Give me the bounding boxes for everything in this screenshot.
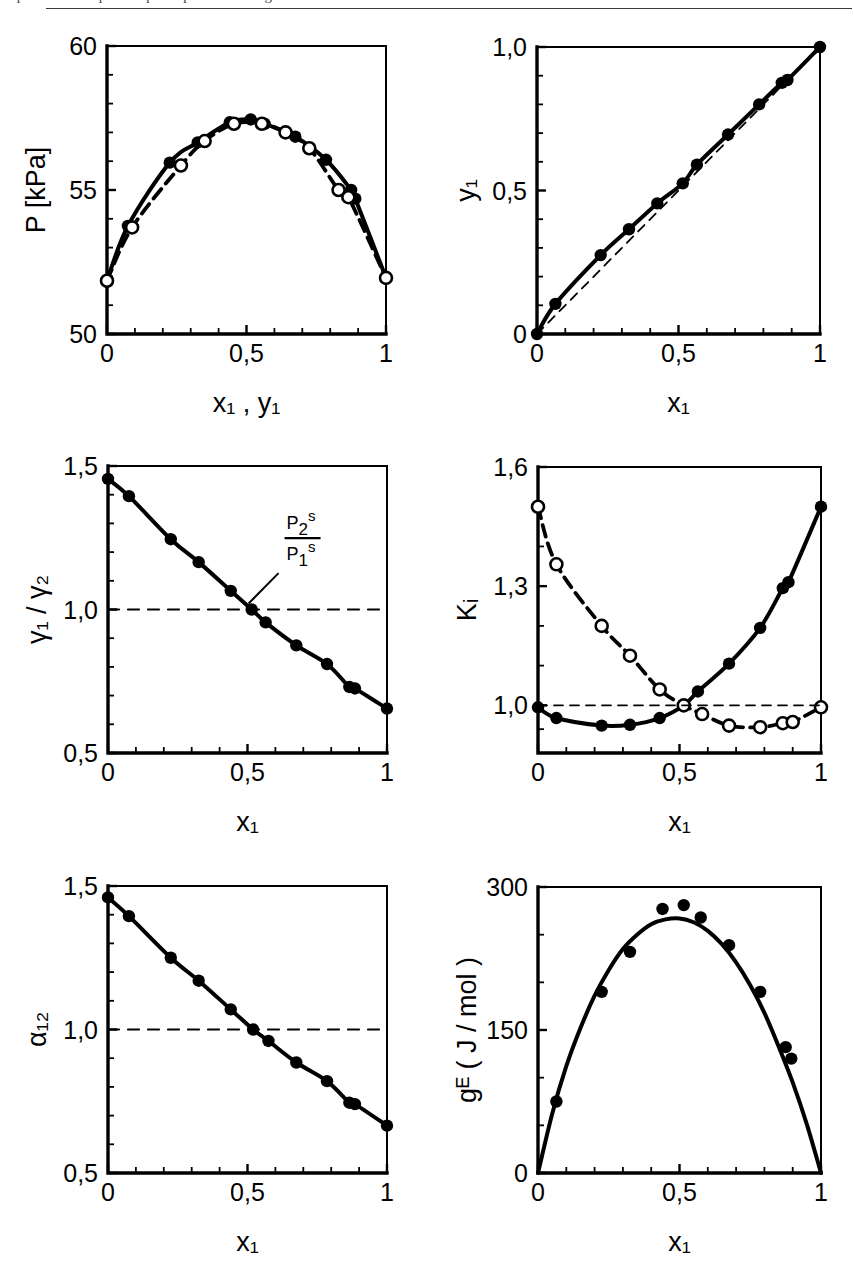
data-point-filled	[754, 622, 766, 634]
data-point-filled	[722, 128, 734, 140]
y-tick-label: 50	[69, 320, 97, 348]
data-point-filled	[782, 576, 794, 588]
y-axis-label: α₁₂	[22, 1012, 52, 1047]
data-point-open	[228, 118, 240, 130]
annotation-numerator: P2s	[287, 507, 316, 539]
x-tick-label: 0,5	[662, 758, 697, 786]
y-tick-label: 1,3	[493, 572, 528, 600]
data-point-filled	[624, 719, 636, 731]
data-point-filled	[321, 658, 333, 670]
series-line-filled-circle	[108, 479, 387, 709]
y-tick-label: 1,0	[63, 1016, 98, 1044]
x-tick-label: 1	[380, 1178, 394, 1206]
annotation-leader-line	[249, 573, 279, 603]
x-tick-label: 0,5	[230, 758, 265, 786]
x-axis-label: x₁ , y₁	[213, 388, 281, 418]
y-axis-label-text: gᴱ ( J / mol )	[452, 957, 482, 1103]
data-point-filled	[165, 952, 177, 964]
x-axis-label: x₁	[667, 388, 690, 418]
data-point-open	[596, 620, 608, 632]
data-point-filled	[595, 719, 607, 731]
y-tick-label: 55	[69, 176, 97, 204]
x-axis-label: x₁	[236, 1227, 259, 1257]
y-tick-label: 60	[69, 32, 97, 60]
x-tick-label: 0	[531, 758, 545, 786]
y-tick-label: 1,0	[493, 691, 528, 719]
figure-canvas: Experimental vapour–liquid equilibrium d…	[0, 0, 853, 1264]
data-point-filled	[225, 585, 237, 597]
x-tick-label: 1	[380, 758, 394, 786]
data-point-filled	[192, 975, 204, 987]
y-axis-label-text: γ₁ / γ₂	[22, 575, 52, 644]
y-tick-label: 1,6	[493, 453, 528, 481]
data-point-filled	[623, 223, 635, 235]
x-tick-label: 0	[100, 339, 114, 367]
data-point-open	[199, 135, 211, 147]
data-point-filled	[723, 657, 735, 669]
data-point-open	[787, 716, 799, 728]
data-point-open	[126, 221, 138, 233]
series-line-filled-circle	[538, 507, 821, 726]
data-point-filled	[653, 712, 665, 724]
y-tick-label: 0	[514, 1159, 528, 1187]
y-tick-label: 1,0	[492, 33, 527, 61]
data-point-open	[256, 118, 268, 130]
data-point-open	[754, 721, 766, 733]
series-line-none	[538, 918, 821, 1173]
x-axis-label: x₁	[668, 1227, 691, 1257]
y-tick-label: 0,5	[492, 177, 527, 205]
chart-panel-alpha12: 00,510,51,01,5x₁α₁₂	[22, 872, 394, 1257]
data-point-filled	[259, 616, 271, 628]
data-point-filled	[123, 910, 135, 922]
data-point-filled	[550, 712, 562, 724]
plot-grid: 00,51505560x₁ , y₁P [kPa]00,5100,51,0x₁y…	[0, 0, 853, 1264]
data-point-filled	[549, 298, 561, 310]
data-point-filled	[381, 702, 393, 714]
chart-panel-k-values: 00,511,01,31,6x₁Kᵢ	[452, 453, 828, 837]
data-point-filled	[102, 891, 114, 903]
data-point-filled	[349, 682, 361, 694]
x-tick-label: 0,5	[662, 1178, 697, 1206]
chart-panel-p-xy: 00,51505560x₁ , y₁P [kPa]	[21, 32, 393, 418]
data-point-open	[175, 160, 187, 172]
x-tick-label: 0	[530, 339, 544, 367]
data-point-open	[550, 558, 562, 570]
data-point-filled	[262, 1035, 274, 1047]
y-tick-label: 1,0	[63, 596, 98, 624]
y-tick-label: 1,5	[63, 452, 98, 480]
data-point-filled	[290, 639, 302, 651]
data-point-filled	[691, 158, 703, 170]
series-line-none	[537, 47, 820, 334]
data-point-open	[280, 126, 292, 138]
data-point-filled	[677, 177, 689, 189]
page-header-sliver: Experimental vapour–liquid equilibrium d…	[0, 0, 853, 7]
y-axis-label-text: Kᵢ	[452, 599, 482, 621]
data-point-filled	[225, 1003, 237, 1015]
data-point-filled	[532, 701, 544, 713]
y-axis-label: Kᵢ	[452, 599, 482, 621]
y-axis-label: y₁	[451, 179, 481, 202]
page-header-text: Experimental vapour–liquid equilibrium d…	[0, 0, 301, 4]
x-tick-label: 0	[101, 758, 115, 786]
data-point-open	[624, 650, 636, 662]
y-tick-label: 300	[486, 873, 528, 901]
data-point-filled	[692, 685, 704, 697]
x-tick-label: 1	[813, 339, 827, 367]
data-point-open	[654, 683, 666, 695]
y-axis-label-text: P [kPa]	[21, 147, 51, 234]
y-tick-label: 0	[513, 320, 527, 348]
x-axis-label: x₁	[236, 807, 259, 837]
x-tick-label: 1	[379, 339, 393, 367]
chart-panel-excess-gibbs: 00,510150300x₁gᴱ ( J / mol )	[452, 873, 828, 1257]
data-point-open	[723, 720, 735, 732]
data-point-filled	[594, 249, 606, 261]
data-point-open	[815, 701, 827, 713]
x-tick-label: 0	[101, 1178, 115, 1206]
data-point-filled	[656, 903, 668, 915]
data-point-filled	[102, 473, 114, 485]
x-tick-label: 1	[814, 758, 828, 786]
x-tick-label: 1	[814, 1178, 828, 1206]
data-point-filled	[678, 899, 690, 911]
data-point-filled	[815, 501, 827, 513]
data-point-open	[303, 142, 315, 154]
